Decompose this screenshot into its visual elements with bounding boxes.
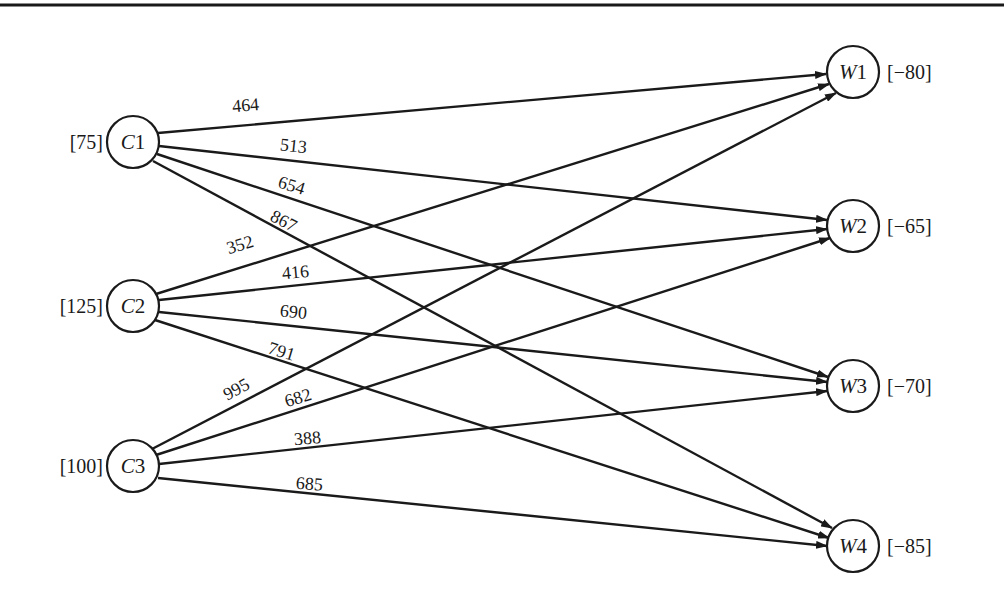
demand-label: [−65] [887,215,932,237]
sink-node-w1: W1 [−80] [827,46,932,98]
edge-cost-c2-w3: 690 [279,301,308,323]
sink-node-w3: W3 [−70] [827,360,932,412]
edge-c2-w2 [159,229,827,300]
edge-c1-w2 [159,146,827,220]
edge-c3-w3 [159,391,827,464]
edge-cost-c2-w4: 791 [266,338,298,365]
node-label: W4 [839,534,868,558]
edge-cost-c1-w2: 513 [279,134,308,157]
node-label: C3 [121,454,146,478]
edge-cost-c3-w2: 682 [282,384,314,411]
edge-c2-w4 [155,320,829,538]
supply-label: [75] [70,131,103,153]
supply-label: [100] [60,455,103,477]
node-label: C2 [121,294,146,318]
edge-c3-w1 [152,93,836,449]
edge-cost-c3-w4: 685 [295,473,323,495]
node-label: W2 [839,214,867,238]
edge-c2-w1 [156,84,829,294]
demand-label: [−85] [887,535,932,557]
transportation-network-diagram: 464 513 654 867 352 416 690 791 995 682 … [0,0,1004,592]
node-label: C1 [121,130,146,154]
edge-c3-w4 [158,478,827,546]
demand-label: [−70] [887,375,932,397]
node-label: W1 [839,60,867,84]
sink-node-w2: W2 [−65] [827,200,932,252]
edge-cost-c3-w3: 388 [293,427,322,449]
node-label: W3 [839,374,867,398]
edge-cost-c2-w1: 352 [224,231,256,258]
source-node-c1: C1 [75] [70,116,159,168]
supply-label: [125] [60,295,103,317]
sink-node-w4: W4 [−85] [827,520,932,572]
source-node-c3: C3 [100] [60,440,159,492]
edge-cost-c1-w4: 867 [267,206,300,236]
edge-cost-c1-w1: 464 [231,94,260,116]
demand-label: [−80] [887,61,932,83]
source-node-c2: C2 [125] [60,280,159,332]
edge-cost-c2-w2: 416 [281,261,310,283]
